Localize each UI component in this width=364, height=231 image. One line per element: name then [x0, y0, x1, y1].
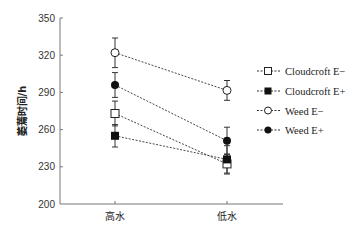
series-line-cloudcroft-e-minus — [115, 114, 227, 164]
line-chart: 350 320 290 260 230 200 萎蔫时间/h 高水 低水 — [0, 0, 364, 231]
legend-label: Cloudcroft E+ — [285, 86, 346, 97]
marker-open-circle — [223, 86, 231, 94]
y-axis-label: 萎蔫时间/h — [16, 86, 28, 138]
y-tick-label: 350 — [38, 13, 55, 24]
legend-item-cloudcroft-e-minus: Cloudcroft E− — [257, 66, 346, 77]
series-line-weed-e-plus — [115, 85, 227, 141]
y-tick-label: 290 — [38, 87, 55, 98]
error-bars — [112, 38, 230, 174]
marker-filled-square — [111, 132, 119, 140]
legend-label: Cloudcroft E− — [285, 66, 346, 77]
marker-filled-circle — [223, 137, 231, 145]
markers — [111, 49, 231, 168]
x-category-label: 低水 — [217, 210, 237, 222]
x-category-label: 高水 — [105, 210, 125, 222]
legend-label: Weed E+ — [285, 125, 324, 136]
y-tick-label: 230 — [38, 161, 55, 172]
y-axis: 350 320 290 260 230 200 萎蔫时间/h — [16, 13, 63, 210]
legend: Cloudcroft E− Cloudcroft E+ Weed E− Weed… — [257, 66, 346, 136]
y-tick-label: 200 — [38, 199, 55, 210]
marker-filled-circle — [111, 81, 119, 89]
series-lines — [115, 53, 227, 164]
series-line-weed-e-minus — [115, 53, 227, 91]
legend-item-cloudcroft-e-plus: Cloudcroft E+ — [257, 86, 346, 97]
legend-item-weed-e-minus: Weed E− — [257, 106, 324, 117]
y-tick-label: 260 — [38, 124, 55, 135]
y-tick-label: 320 — [38, 50, 55, 61]
legend-item-weed-e-plus: Weed E+ — [257, 125, 324, 136]
marker-open-circle — [111, 49, 119, 57]
x-axis: 高水 低水 — [60, 201, 283, 222]
marker-filled-square — [223, 155, 231, 163]
series-line-cloudcroft-e-plus — [115, 136, 227, 160]
marker-open-square — [111, 110, 119, 118]
legend-label: Weed E− — [285, 106, 324, 117]
